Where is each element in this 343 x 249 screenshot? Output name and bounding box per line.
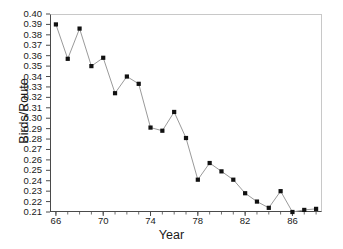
series-line (56, 24, 316, 212)
data-point-marker (54, 22, 58, 26)
data-point-marker (290, 210, 294, 214)
data-point-marker (231, 178, 235, 182)
y-tick-label: 0.36 (14, 51, 42, 60)
data-point-marker (148, 125, 152, 129)
data-point-marker (125, 74, 129, 78)
y-tick-label: 0.27 (14, 144, 42, 153)
data-point-marker (172, 110, 176, 114)
y-tick-label: 0.28 (14, 134, 42, 143)
data-point-marker (113, 91, 117, 95)
chart-figure: Birds/Route Year 0.210.220.230.240.250.2… (0, 0, 343, 249)
data-point-marker (89, 64, 93, 68)
y-tick-label: 0.25 (14, 165, 42, 174)
y-tick-label: 0.32 (14, 92, 42, 101)
y-tick-label: 0.29 (14, 124, 42, 133)
data-point-marker (255, 199, 259, 203)
data-point-marker (196, 178, 200, 182)
data-point-marker (184, 136, 188, 140)
data-point-marker (208, 161, 212, 165)
y-tick-label: 0.35 (14, 61, 42, 70)
y-tick-label: 0.30 (14, 113, 42, 122)
data-point-marker (160, 129, 164, 133)
data-point-marker (219, 169, 223, 173)
y-tick-label: 0.26 (14, 155, 42, 164)
data-point-marker (314, 207, 318, 211)
data-point-marker (279, 189, 283, 193)
y-tick-label: 0.34 (14, 72, 42, 81)
y-tick-label: 0.39 (14, 19, 42, 28)
y-tick-label: 0.21 (14, 207, 42, 216)
x-tick-label: 74 (139, 216, 163, 225)
y-tick-label: 0.22 (14, 197, 42, 206)
x-tick-label: 66 (44, 216, 68, 225)
data-point-marker (66, 57, 70, 61)
data-point-marker (267, 206, 271, 210)
y-tick-label: 0.37 (14, 40, 42, 49)
x-tick-label: 70 (91, 216, 115, 225)
data-point-marker (77, 26, 81, 30)
data-point-marker (101, 56, 105, 60)
x-tick-label: 82 (233, 216, 257, 225)
y-tick-label: 0.24 (14, 176, 42, 185)
y-tick-label: 0.23 (14, 186, 42, 195)
y-tick-label: 0.31 (14, 103, 42, 112)
y-tick-label: 0.38 (14, 30, 42, 39)
data-point-marker (243, 191, 247, 195)
chart-canvas (0, 0, 343, 249)
y-tick-label: 0.40 (14, 9, 42, 18)
x-tick-label: 78 (186, 216, 210, 225)
x-tick-label: 86 (280, 216, 304, 225)
data-point-marker (302, 208, 306, 212)
y-tick-label: 0.33 (14, 82, 42, 91)
data-point-marker (137, 82, 141, 86)
